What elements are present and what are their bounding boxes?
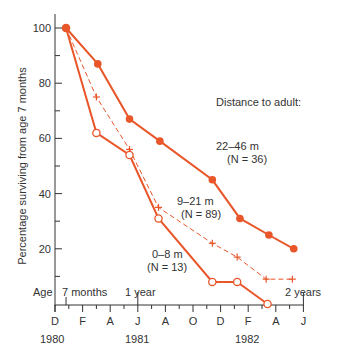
series-n-9-21m: (N = 89) [181, 208, 221, 220]
x-tick-label: F [245, 315, 252, 327]
x-tick-label: A [107, 315, 115, 327]
data-point [209, 176, 217, 184]
x-tick-label: D [51, 315, 59, 327]
data-point [264, 300, 271, 307]
series-n-0-8m: (N = 13) [147, 261, 187, 273]
x-tick-label: A [162, 315, 170, 327]
series-label-22-46m: 22–46 m [216, 140, 259, 152]
age-1-year-label: 1 year [125, 286, 156, 298]
y-tick-label: 80 [39, 77, 51, 89]
year-1980-label: 1980 [40, 333, 64, 345]
data-point [156, 137, 164, 145]
x-tick-label: J [301, 315, 307, 327]
series-label-9-21m: 9–21 m [177, 195, 214, 207]
x-tick-label: D [217, 315, 225, 327]
x-tick-label: O [189, 315, 198, 327]
data-point [265, 231, 273, 239]
data-point [234, 278, 241, 285]
year-1982-label: 1982 [235, 333, 259, 345]
y-tick-label: 20 [39, 243, 51, 255]
data-point [94, 60, 102, 68]
age-label: Age [33, 286, 53, 298]
survival-chart: 20406080100DFAJAODFAJ [0, 0, 339, 356]
age-7-months-label: 7 months [62, 286, 107, 298]
data-point [126, 151, 133, 158]
y-tick-label: 40 [39, 188, 51, 200]
y-tick-label: 60 [39, 132, 51, 144]
series-label-0-8m: 0–8 m [152, 248, 183, 260]
data-point [209, 278, 216, 285]
data-point [126, 115, 134, 123]
data-point [155, 215, 162, 222]
x-tick-label: J [135, 315, 141, 327]
start-point [62, 24, 70, 32]
data-point [236, 215, 244, 223]
age-2-years-label: 2 years [285, 286, 321, 298]
legend-title: Distance to adult: [216, 96, 301, 108]
year-1981-label: 1981 [125, 333, 149, 345]
data-point [290, 245, 298, 253]
y-axis-label: Percentage surviving from age 7 months [16, 66, 28, 266]
x-tick-label: F [79, 315, 86, 327]
data-point [93, 129, 100, 136]
series-n-22-46m: (N = 36) [227, 153, 267, 165]
y-tick-label: 100 [33, 22, 51, 34]
x-tick-label: A [272, 315, 280, 327]
